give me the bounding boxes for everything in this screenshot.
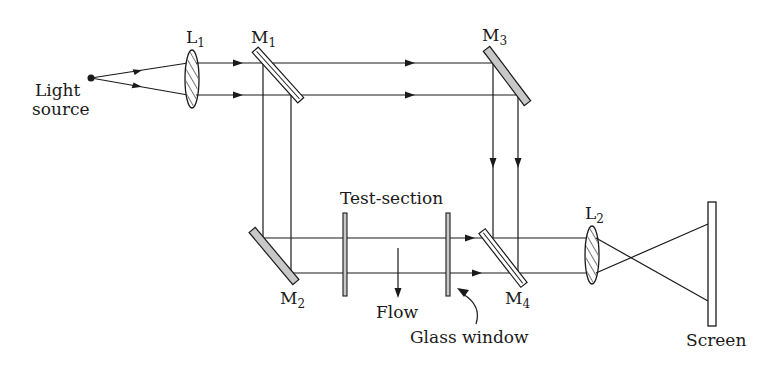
light-source-label-line2: source xyxy=(32,99,90,119)
interferometer-diagram: Light source L1 xyxy=(0,0,782,366)
converging-rays xyxy=(596,224,708,301)
lower-beam-rays xyxy=(263,235,588,277)
diverging-rays xyxy=(91,63,188,95)
lens-l1 xyxy=(185,50,199,108)
mirror-m2-label: M2 xyxy=(280,288,305,311)
glass-window-label: Glass window xyxy=(410,327,529,347)
test-section xyxy=(343,213,450,296)
screen xyxy=(708,202,716,326)
glass-window-left xyxy=(343,213,347,296)
lens-l2-label: L2 xyxy=(585,203,604,226)
upper-beam-rays xyxy=(196,60,518,99)
test-section-label: Test-section xyxy=(340,188,443,208)
mirror-m4-label: M4 xyxy=(505,288,530,311)
lens-l2 xyxy=(585,226,599,284)
mirror-m3 xyxy=(483,46,530,105)
flow-label: Flow xyxy=(376,302,418,322)
glass-window-pointer xyxy=(457,288,477,324)
mirror-m1-label: M1 xyxy=(251,27,276,50)
mirror-m3-label: M3 xyxy=(482,25,507,48)
screen-label: Screen xyxy=(686,330,746,350)
lens-l1-label: L1 xyxy=(186,27,205,50)
light-source-label-line1: Light xyxy=(35,80,81,100)
glass-window-right xyxy=(446,213,450,296)
